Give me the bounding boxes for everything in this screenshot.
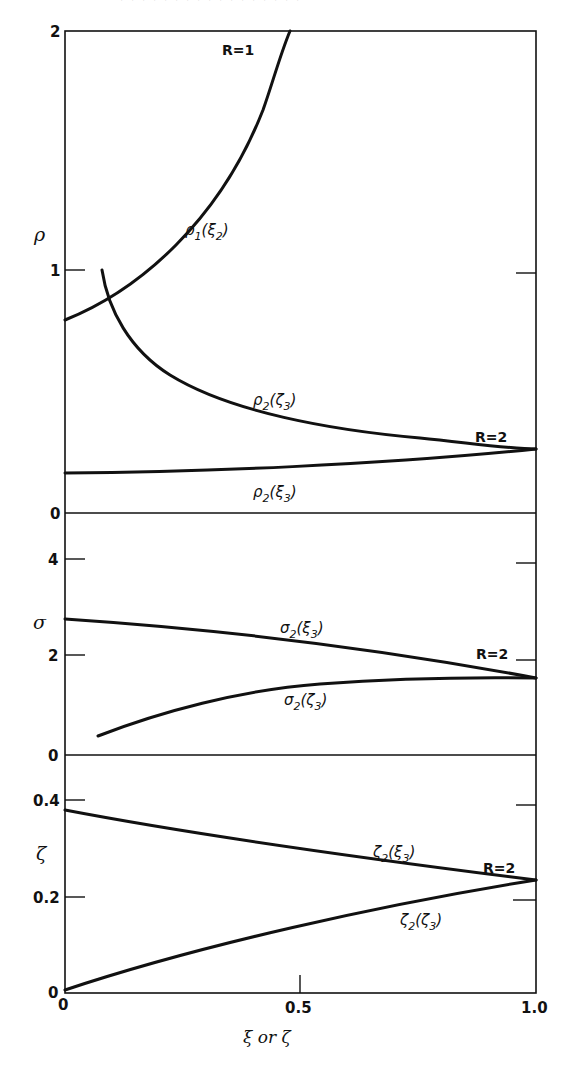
label-rho2-zeta3: ρ2(ζ3) bbox=[253, 391, 296, 413]
svg-text:ρ1(ξ2): ρ1(ξ2) bbox=[185, 221, 229, 243]
cropped-header-text: · · · · · · · · · · · · · · · · · bbox=[120, 0, 500, 4]
rho-tick-2: 2 bbox=[50, 23, 60, 41]
svg-text:σ2(ζ3): σ2(ζ3) bbox=[284, 691, 327, 713]
curve-zeta2-zeta3 bbox=[65, 880, 536, 990]
rho-axis-label: ρ bbox=[33, 223, 46, 245]
x-tick-0: 0 bbox=[58, 996, 68, 1014]
chart-svg: 2 1 0 4 2 0 0.4 0.2 0 0 0.5 1.0 ρ σ ζ ξ … bbox=[0, 0, 574, 1067]
label-rho2-xi3: ρ2(ξ3) bbox=[253, 483, 297, 505]
sigma-axis-label: σ bbox=[33, 611, 47, 633]
curve-rho2-zeta3 bbox=[102, 270, 536, 449]
annotation-r2-rho: R=2 bbox=[475, 429, 507, 445]
zeta-tick-0.2: 0.2 bbox=[33, 889, 60, 907]
label-sigma2-xi3: σ2(ξ3) bbox=[280, 619, 324, 641]
curves bbox=[65, 31, 536, 990]
rho-tick-1: 1 bbox=[50, 262, 60, 280]
curve-zeta2-xi3 bbox=[65, 810, 536, 880]
zeta-tick-0.4: 0.4 bbox=[33, 792, 60, 810]
label-sigma2-zeta3: σ2(ζ3) bbox=[284, 691, 327, 713]
sigma-tick-0: 0 bbox=[48, 747, 58, 765]
zeta-tick-0: 0 bbox=[48, 984, 58, 1002]
svg-text:ρ2(ξ3): ρ2(ξ3) bbox=[253, 483, 297, 505]
x-axis-label: ξ or ζ bbox=[243, 1027, 293, 1047]
svg-text:ρ2(ζ3): ρ2(ζ3) bbox=[253, 391, 296, 413]
label-rho1-xi2: ρ1(ξ2) bbox=[185, 221, 229, 243]
annotation-r1: R=1 bbox=[222, 42, 254, 58]
figure: · · · · · · · · · · · · · · · · · bbox=[0, 0, 574, 1067]
x-tick-0.5: 0.5 bbox=[285, 999, 312, 1017]
label-zeta2-zeta3: ζ2(ζ3) bbox=[399, 911, 442, 933]
svg-text:σ2(ξ3): σ2(ξ3) bbox=[280, 619, 324, 641]
zeta-axis-label: ζ bbox=[36, 842, 48, 864]
rho-tick-0: 0 bbox=[50, 505, 60, 523]
annotation-r2-sigma: R=2 bbox=[476, 646, 508, 662]
annotation-r2-zeta: R=2 bbox=[483, 860, 515, 876]
sigma-tick-2: 2 bbox=[48, 647, 58, 665]
curve-rho2-xi3 bbox=[65, 449, 536, 473]
x-tick-1.0: 1.0 bbox=[521, 999, 548, 1017]
svg-text:ζ2(ζ3): ζ2(ζ3) bbox=[399, 911, 442, 933]
sigma-tick-4: 4 bbox=[48, 551, 58, 569]
curve-rho1-xi2 bbox=[65, 31, 290, 320]
